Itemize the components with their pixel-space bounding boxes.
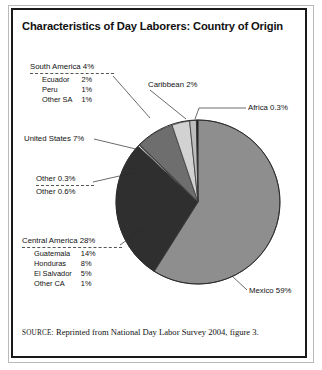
page-title: Characteristics of Day Laborers: Country…	[22, 20, 294, 33]
source-prefix: SOURCE:	[22, 329, 54, 337]
sub-label: Peru	[42, 85, 72, 95]
sub-value: 8%	[72, 259, 96, 269]
callout-central-america-rule	[22, 247, 122, 248]
sub-value: 5%	[72, 269, 96, 279]
callout-south-america-label: South America 4%	[30, 62, 114, 73]
sub-label: Honduras	[34, 259, 72, 269]
table-row: El Salvador 5%	[34, 269, 96, 279]
callout-other-rule	[36, 185, 94, 186]
table-row: Honduras 8%	[34, 259, 96, 269]
table-row: Guatemala 14%	[34, 249, 96, 259]
sub-label: Guatemala	[34, 249, 72, 259]
sub-value: 14%	[72, 249, 96, 259]
callout-other-03-label: Other 0.3%	[36, 174, 94, 185]
callout-south-america-rule	[30, 73, 114, 74]
callout-mexico-label: Mexico 59%	[249, 286, 291, 295]
sub-value: 2%	[72, 75, 92, 85]
figure-container: Characteristics of Day Laborers: Country…	[0, 0, 322, 370]
callout-south-america: South America 4% Ecuador 2% Peru 1% Othe…	[30, 62, 114, 104]
sub-value: 1%	[72, 278, 96, 288]
south-america-breakdown: Ecuador 2% Peru 1% Other SA 1%	[42, 75, 92, 104]
pie-slices	[116, 120, 280, 284]
sub-label: Other CA	[34, 278, 72, 288]
table-row: Ecuador 2%	[42, 75, 92, 85]
table-row: Other SA 1%	[42, 95, 92, 105]
sub-label: El Salvador	[34, 269, 72, 279]
callout-caribbean-label: Caribbean 2%	[148, 80, 197, 89]
callout-other-06-label: Other 0.6%	[36, 187, 94, 198]
pie-chart	[108, 112, 288, 292]
callout-central-america-label: Central America 28%	[22, 236, 122, 247]
sub-label: Other SA	[42, 95, 72, 105]
source-text: Reprinted from National Day Labor Survey…	[54, 327, 259, 337]
callout-africa-label: Africa 0.3%	[248, 103, 288, 112]
callout-other-group: Other 0.3% Other 0.6%	[36, 174, 94, 198]
sub-value: 1%	[72, 85, 92, 95]
source-note: SOURCE: Reprinted from National Day Labo…	[22, 327, 290, 339]
sub-label: Ecuador	[42, 75, 72, 85]
callout-united-states-label: United States 7%	[24, 134, 84, 143]
callout-central-america: Central America 28% Guatemala 14% Hondur…	[22, 236, 122, 288]
central-america-breakdown: Guatemala 14% Honduras 8% El Salvador 5%…	[34, 249, 96, 288]
sub-value: 1%	[72, 95, 92, 105]
table-row: Peru 1%	[42, 85, 92, 95]
table-row: Other CA 1%	[34, 278, 96, 288]
